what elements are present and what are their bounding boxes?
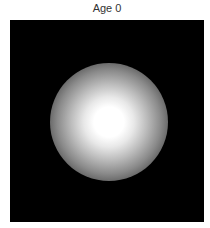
image-panel [10, 20, 204, 222]
figure-title: Age 0 [0, 2, 210, 14]
radial-glow [50, 63, 168, 181]
